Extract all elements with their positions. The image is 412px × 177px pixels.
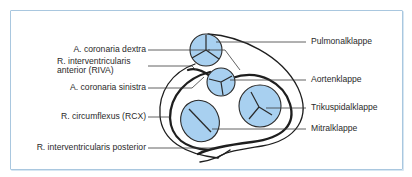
- label-riv-posterior: R. interventricularis posterior: [37, 143, 146, 153]
- label-rcx: R. circumflexus (RCX): [61, 112, 146, 122]
- trikuspidalklappe-valve: [239, 85, 281, 127]
- label-aortenklappe: Aortenklappe: [311, 75, 362, 85]
- label-mitralklappe: Mitralklappe: [311, 124, 357, 134]
- label-a-coronaria-sinistra: A. coronaria sinistra: [70, 83, 146, 93]
- label-trikuspidalklappe: Trikuspidalklappe: [311, 103, 378, 113]
- label-a-coronaria-dextra: A. coronaria dextra: [73, 45, 146, 55]
- label-pulmonalklappe: Pulmonalklappe: [311, 37, 372, 47]
- label-riva-line2: anterior (RIVA): [57, 66, 114, 76]
